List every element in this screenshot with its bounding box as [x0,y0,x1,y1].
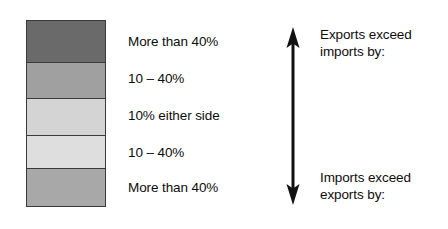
trade-balance-legend: More than 40% 10 – 40% 10% either side 1… [0,0,448,229]
exports-exceed-caption: Exports exceed imports by: [320,26,412,60]
exports-caption-line-2: imports by: [320,43,412,60]
imports-caption-line-2: exports by: [320,186,411,203]
imports-exceed-caption: Imports exceed exports by: [320,169,411,203]
legend-label-1: More than 40% [128,34,218,50]
legend-label-3: 10% either side [128,108,220,124]
exports-caption-line-1: Exports exceed [320,26,412,43]
legend-label-5: More than 40% [128,180,218,196]
swatch-band-3 [27,99,105,136]
swatch-band-4 [27,136,105,170]
legend-label-4: 10 – 40% [128,145,184,161]
double-headed-vertical-arrow-icon [280,26,306,206]
swatch-band-2 [27,63,105,100]
swatch-band-1 [27,21,105,63]
color-ramp-swatch-column [26,20,106,207]
legend-label-2: 10 – 40% [128,71,184,87]
imports-caption-line-1: Imports exceed [320,169,411,186]
swatch-band-5 [27,169,105,206]
